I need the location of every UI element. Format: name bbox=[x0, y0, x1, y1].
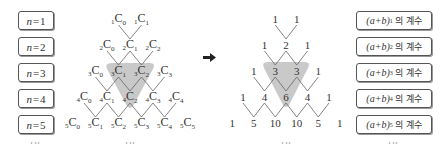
pascal-value-r1-c1: 1 bbox=[294, 14, 300, 25]
label-exponent: 1 bbox=[390, 18, 393, 24]
combination-5C0: 5C0 bbox=[65, 116, 80, 131]
comb-letter: C bbox=[126, 37, 134, 51]
combination-4C4: 4C4 bbox=[168, 90, 183, 105]
comb-letter: C bbox=[137, 11, 145, 25]
comb-r: 1 bbox=[111, 97, 115, 105]
comb-letter: C bbox=[114, 63, 122, 77]
row-label-n4: n=4 bbox=[18, 89, 54, 108]
label-suffix: 의 계수 bbox=[395, 66, 422, 79]
comb-letter: C bbox=[160, 115, 168, 129]
label-num: 3 bbox=[40, 67, 46, 79]
comb-letter: C bbox=[103, 89, 111, 103]
comb-letter: C bbox=[149, 37, 157, 51]
comb-letter: C bbox=[80, 89, 88, 103]
row-label-n2: n=2 bbox=[18, 37, 54, 56]
comb-r: 2 bbox=[146, 71, 150, 79]
combination-4C3: 4C3 bbox=[145, 90, 160, 105]
comb-letter: C bbox=[91, 115, 99, 129]
label-exponent: 2 bbox=[390, 44, 393, 50]
label-exponent: 3 bbox=[390, 70, 393, 76]
combination-4C1: 4C1 bbox=[99, 90, 114, 105]
row-label-n1: n=1 bbox=[18, 11, 54, 30]
pascal-value-r5-c3: 10 bbox=[291, 118, 302, 129]
comb-r: 3 bbox=[146, 123, 150, 131]
coefficient-label-5: (a+b)5의 계수 bbox=[356, 115, 432, 134]
pascal-value-r2-c2: 1 bbox=[305, 40, 311, 51]
comb-letter: C bbox=[172, 89, 180, 103]
pascal-value-r4-c1: 4 bbox=[262, 92, 268, 103]
comb-letter: C bbox=[149, 89, 157, 103]
pascal-value-r3-c2: 3 bbox=[294, 66, 300, 77]
comb-r: 0 bbox=[100, 71, 104, 79]
combination-1C0: 1C0 bbox=[111, 12, 126, 27]
combination-4C2: 4C2 bbox=[122, 90, 137, 105]
combination-4C0: 4C0 bbox=[76, 90, 91, 105]
comb-r: 4 bbox=[180, 97, 184, 105]
combination-2C0: 2C0 bbox=[99, 38, 114, 53]
label-eq: = bbox=[33, 93, 39, 105]
row-label-n5: n=5 bbox=[18, 115, 54, 134]
label-suffix: 의 계수 bbox=[395, 118, 422, 131]
comb-r: 1 bbox=[134, 45, 138, 53]
label-suffix: 의 계수 bbox=[395, 14, 422, 27]
comb-letter: C bbox=[137, 63, 145, 77]
comb-r: 0 bbox=[111, 45, 115, 53]
comb-letter: C bbox=[68, 115, 76, 129]
combination-2C2: 2C2 bbox=[145, 38, 160, 53]
pascal-value-r5-c5: 1 bbox=[337, 118, 343, 129]
pascal-value-r4-c3: 4 bbox=[305, 92, 311, 103]
label-eq: = bbox=[33, 67, 39, 79]
coefficient-label-3: (a+b)3의 계수 bbox=[356, 63, 432, 82]
pascal-value-r4-c2: 6 bbox=[283, 92, 289, 103]
label-binomial: (a+b) bbox=[366, 15, 389, 26]
label-eq: = bbox=[33, 41, 39, 53]
pascal-value-r4-c4: 1 bbox=[326, 92, 332, 103]
label-var: n bbox=[26, 67, 32, 79]
combination-3C0: 3C0 bbox=[88, 64, 103, 79]
label-num: 4 bbox=[40, 93, 46, 105]
label-num: 1 bbox=[40, 15, 46, 27]
arrow-right-icon bbox=[203, 53, 216, 62]
comb-letter: C bbox=[137, 115, 145, 129]
right-ellipsis: ⋮ bbox=[391, 138, 395, 147]
label-var: n bbox=[26, 93, 32, 105]
pascal-value-r5-c4: 5 bbox=[316, 118, 322, 129]
comb-letter: C bbox=[103, 37, 111, 51]
comb-letter: C bbox=[183, 115, 191, 129]
comb-r: 3 bbox=[169, 71, 173, 79]
left-ellipsis: ⋮ bbox=[33, 138, 37, 147]
pascal-value-r3-c1: 3 bbox=[273, 66, 279, 77]
label-eq: = bbox=[33, 119, 39, 131]
combination-5C2: 5C2 bbox=[111, 116, 126, 131]
pascal-value-r3-c3: 1 bbox=[316, 66, 322, 77]
pascal-value-r2-c0: 1 bbox=[262, 40, 268, 51]
combination-5C4: 5C4 bbox=[157, 116, 172, 131]
pascal-value-r5-c2: 10 bbox=[270, 118, 281, 129]
label-exponent: 4 bbox=[390, 96, 393, 102]
comb-r: 0 bbox=[88, 97, 92, 105]
comb-r: 2 bbox=[123, 123, 127, 131]
label-var: n bbox=[26, 119, 32, 131]
pascal-value-r4-c0: 1 bbox=[240, 92, 246, 103]
label-binomial: (a+b) bbox=[366, 41, 389, 52]
combination-5C1: 5C1 bbox=[88, 116, 103, 131]
label-suffix: 의 계수 bbox=[395, 92, 422, 105]
label-exponent: 5 bbox=[390, 122, 393, 128]
label-binomial: (a+b) bbox=[366, 119, 389, 130]
coefficient-label-2: (a+b)2의 계수 bbox=[356, 37, 432, 56]
comb-letter: C bbox=[160, 63, 168, 77]
comb-r: 1 bbox=[100, 123, 104, 131]
label-suffix: 의 계수 bbox=[395, 40, 422, 53]
comb-r: 4 bbox=[169, 123, 173, 131]
label-num: 2 bbox=[40, 41, 46, 53]
label-binomial: (a+b) bbox=[366, 93, 389, 104]
row-label-n3: n=3 bbox=[18, 63, 54, 82]
combination-3C2: 3C2 bbox=[134, 64, 149, 79]
combination-5C3: 5C3 bbox=[134, 116, 149, 131]
combination-5C5: 5C5 bbox=[180, 116, 195, 131]
label-num: 5 bbox=[40, 119, 46, 131]
comb-r: 2 bbox=[157, 45, 161, 53]
comb-r: 1 bbox=[146, 19, 150, 27]
label-eq: = bbox=[33, 15, 39, 27]
comb-r: 1 bbox=[123, 71, 127, 79]
